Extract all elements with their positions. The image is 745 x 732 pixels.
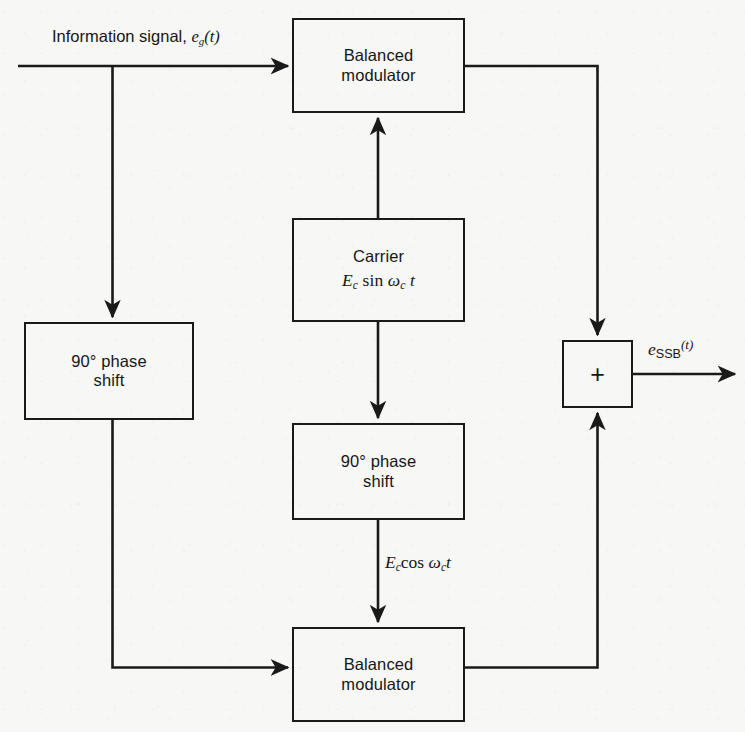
carrier-time: t [405, 270, 414, 290]
carrier-function: sin [358, 270, 388, 290]
input-signal-prefix: Information signal, [52, 27, 191, 45]
carrier-formula: Ec sin ωc t [342, 270, 415, 293]
balanced-modulator-bottom-line1: Balanced [344, 655, 414, 673]
balanced-modulator-bottom-line2: modulator [341, 675, 415, 694]
summer-block[interactable]: + [562, 340, 633, 408]
diagram-canvas: Information signal, eg(t) Balanced modul… [0, 0, 745, 732]
carrier-cos-amplitude: E [385, 552, 396, 572]
summer-plus-symbol: + [590, 362, 605, 387]
phase-shift-left-line1: 90° phase [71, 352, 146, 370]
output-signal-label: eSSB(t) [648, 337, 693, 361]
phase-shift-left-label: 90° phase shift [71, 352, 146, 391]
balanced-modulator-top-line2: modulator [341, 66, 415, 85]
input-signal-label: Information signal, eg(t) [52, 27, 220, 47]
output-signal-symbol: e [648, 339, 656, 359]
carrier-amplitude: E [342, 270, 353, 290]
carrier-cos-time: t [446, 552, 451, 572]
phase-shift-middle-block[interactable]: 90° phase shift [292, 423, 465, 520]
balanced-modulator-top-line1: Balanced [344, 46, 414, 64]
carrier-line1: Carrier [353, 247, 404, 265]
carrier-block[interactable]: Carrier Ec sin ωc t [292, 218, 465, 322]
phase-shift-left-line2: shift [71, 371, 146, 390]
phase-shift-left-block[interactable]: 90° phase shift [24, 322, 194, 420]
balanced-modulator-top-label: Balanced modulator [341, 46, 415, 85]
wire-left-phase-shift-to-bottom-modulator [113, 420, 289, 668]
phase-shift-middle-line2: shift [341, 472, 416, 491]
carrier-omega: ω [388, 270, 400, 290]
balanced-modulator-top-block[interactable]: Balanced modulator [292, 18, 465, 113]
balanced-modulator-bottom-label: Balanced modulator [341, 655, 415, 694]
balanced-modulator-bottom-block[interactable]: Balanced modulator [292, 627, 465, 722]
carrier-cos-omega: ω [429, 552, 441, 572]
input-signal-suffix: (t) [204, 27, 220, 46]
phase-shift-middle-label: 90° phase shift [341, 452, 416, 491]
output-signal-subscript: SSB [656, 347, 681, 361]
input-signal-symbol: e [191, 27, 198, 46]
output-signal-suffix: (t) [681, 337, 693, 352]
carrier-label: Carrier Ec sin ωc t [342, 247, 415, 292]
carrier-cos-label: Eccos ωct [385, 552, 451, 573]
phase-shift-middle-line1: 90° phase [341, 452, 416, 470]
wire-top-modulator-to-summer [465, 66, 598, 335]
carrier-cos-function: cos [401, 552, 429, 572]
wire-bottom-modulator-to-summer [465, 413, 598, 668]
